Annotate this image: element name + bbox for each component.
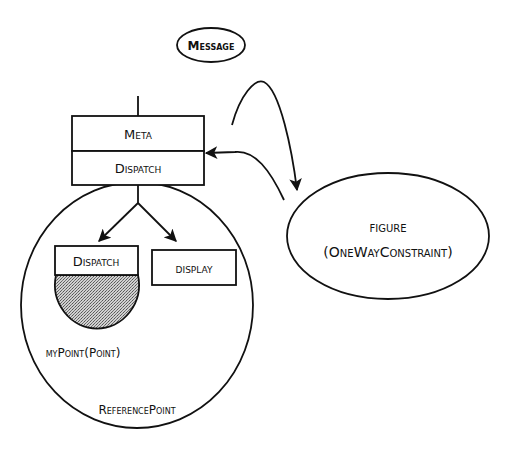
arrow-to-inner-dispatch (99, 203, 138, 241)
my-point-object: myPoint(Point) (46, 275, 139, 360)
display-label: display (176, 261, 213, 276)
arrow-to-display (138, 203, 176, 241)
figure-type-label: (OneWayConstraint) (323, 244, 452, 260)
diagram-canvas: Message ReferencePoint Meta Dispatch myP… (0, 0, 508, 455)
reference-point-label: ReferencePoint (98, 403, 175, 417)
arrow-figure-to-dispatch (206, 152, 284, 200)
inner-dispatch-label: Dispatch (73, 254, 120, 269)
figure-node: figure (OneWayConstraint) (287, 173, 489, 299)
message-node: Message (177, 28, 245, 62)
display-node: display (152, 250, 236, 285)
reference-point-node: ReferencePoint (21, 182, 253, 428)
arrow-meta-to-figure (232, 81, 297, 190)
figure-label: figure (369, 219, 406, 235)
meta-label: Meta (124, 127, 153, 142)
message-label: Message (188, 39, 235, 53)
inner-dispatch-node: Dispatch (55, 246, 138, 275)
my-point-label: myPoint(Point) (46, 346, 121, 360)
meta-stack: Meta Dispatch (72, 116, 204, 185)
dispatch-branch-arrows (99, 185, 176, 241)
dispatch-label: Dispatch (115, 161, 162, 176)
